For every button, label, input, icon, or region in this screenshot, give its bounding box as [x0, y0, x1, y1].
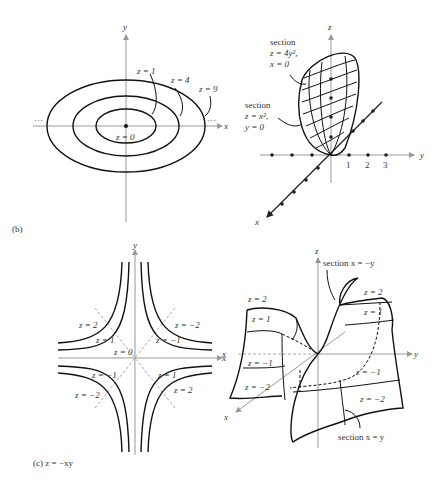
label-z0: z = 0	[113, 347, 133, 357]
y-axis-label: y	[413, 349, 418, 359]
panel-c-contour-plot: x y z = 2 z = 1 z = 0 z = −2 z = −1 z = …	[58, 240, 226, 455]
label-z1-br: z = 1	[157, 370, 177, 380]
y-axis-label: y	[132, 240, 137, 250]
label-zm2-left: z = −2	[244, 382, 270, 392]
x-axis	[236, 332, 345, 412]
label-z1-right: z = 1	[363, 307, 383, 317]
x-axis-label: x	[223, 121, 228, 131]
y-tick-2: 2	[365, 160, 370, 170]
section-bottom-label: section x = y	[338, 432, 385, 442]
leader-z9	[205, 96, 211, 116]
label-zm2-bl: z = −2	[74, 390, 100, 400]
x-axis-left-label: x	[221, 349, 226, 359]
section1-line3: x = 0	[269, 59, 290, 69]
label-z2-right: z = 2	[363, 287, 383, 297]
leader-section-bottom	[345, 410, 360, 428]
z-axis-label: z	[314, 246, 319, 256]
leader-z1	[150, 74, 156, 114]
ellipsis-left: ···	[34, 115, 43, 125]
label-z9: z = 9	[198, 84, 218, 94]
label-z2-br: z = 2	[173, 385, 193, 395]
section-top-label: section x = −y	[323, 258, 375, 268]
caption-b: (b)	[12, 224, 23, 234]
figure: x y z = 1 z = 4 z = 9 z = 0 ··· ··· z y …	[0, 0, 445, 482]
label-z2-tl: z = 2	[78, 320, 98, 330]
label-zm2-right: z = −2	[359, 394, 385, 404]
section2-line2: z = x²,	[244, 111, 268, 121]
panel-c-surface-plot: z y x x section x = −y section x = y z =…	[221, 246, 418, 448]
leader-section-top	[327, 270, 335, 300]
paraboloid-sections	[302, 56, 357, 155]
x-axis-label: x	[223, 412, 228, 422]
leader-section-2	[278, 118, 302, 126]
z-axis-label: z	[327, 22, 332, 32]
section2-line1: section	[245, 100, 271, 110]
label-z2-left: z = 2	[247, 294, 267, 304]
panel-b-surface-plot: z y x 1 2 3 section	[244, 22, 424, 227]
caption-c: (c) z = −xy	[33, 458, 73, 468]
label-z1-tl: z = 1	[95, 335, 115, 345]
section1-line1: section	[270, 37, 296, 47]
y-axis-label: y	[122, 22, 127, 32]
y-axis-label: y	[419, 150, 424, 160]
section1-line2: z = 4y²,	[269, 48, 298, 58]
origin-point	[124, 124, 128, 128]
label-zm1-bl: z = −1	[91, 370, 117, 380]
label-z1: z = 1	[136, 66, 156, 76]
label-zm2-tr: z = −2	[174, 320, 200, 330]
ellipsis-right: ···	[207, 115, 216, 125]
label-zm1-left: z = −1	[247, 358, 273, 368]
label-z0: z = 0	[115, 132, 135, 142]
panel-b-contour-plot: x y z = 1 z = 4 z = 9 z = 0 ··· ···	[33, 22, 228, 222]
label-z1-left: z = 1	[251, 314, 271, 324]
label-z4: z = 4	[170, 75, 190, 85]
section2-line3: y = 0	[244, 122, 265, 132]
y-tick-3: 3	[383, 160, 388, 170]
y-tick-1: 1	[346, 160, 351, 170]
x-axis-label: x	[254, 217, 259, 227]
label-zm1-right: z = −1	[355, 367, 381, 377]
label-zm1-tr: z = −1	[155, 335, 181, 345]
